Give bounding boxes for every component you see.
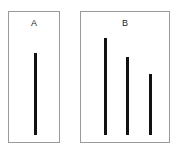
panel-a-bars-area xyxy=(9,12,59,142)
panel-b-bars-area xyxy=(81,12,169,142)
figure-root: A B xyxy=(0,0,177,153)
bar-a-1 xyxy=(34,53,37,135)
bar-b-3 xyxy=(149,74,152,135)
bar-b-1 xyxy=(104,38,107,135)
bar-b-2 xyxy=(126,57,129,135)
panel-a: A xyxy=(8,11,60,143)
panel-b: B xyxy=(80,11,170,143)
